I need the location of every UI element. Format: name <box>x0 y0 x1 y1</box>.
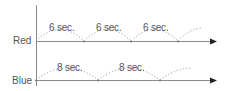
red-interval-label: 6 sec. <box>96 23 121 33</box>
blue-interval-label: 8 sec. <box>57 63 82 73</box>
row-label-red: Red <box>13 36 31 46</box>
red-arrowhead-icon <box>210 39 217 45</box>
timing-diagram: Red Blue 6 sec. 6 sec. 6 sec. 8 sec. 8 s… <box>0 0 228 91</box>
red-interval-label: 6 sec. <box>143 23 168 33</box>
row-label-blue: Blue <box>12 76 32 86</box>
diagram-canvas <box>0 0 228 91</box>
blue-interval-label: 8 sec. <box>119 63 144 73</box>
red-interval-label: 6 sec. <box>49 23 74 33</box>
blue-arrowhead-icon <box>210 78 217 84</box>
